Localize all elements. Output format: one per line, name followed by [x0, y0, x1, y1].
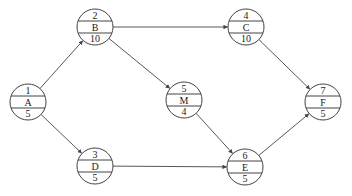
node-7: 7F5 — [305, 84, 341, 120]
nodes-layer: 1A52B103D54C105M46E57F5 — [10, 9, 341, 185]
node-duration: 4 — [182, 106, 187, 117]
node-2: 2B10 — [77, 9, 113, 45]
node-3: 3D5 — [77, 148, 113, 184]
edge-6-to-7 — [259, 114, 309, 156]
node-number: 4 — [244, 10, 249, 21]
node-activity: A — [24, 97, 32, 108]
node-duration: 5 — [321, 108, 326, 119]
node-number: 7 — [321, 85, 326, 96]
node-duration: 10 — [241, 33, 251, 44]
node-number: 6 — [243, 150, 248, 161]
node-number: 2 — [93, 10, 98, 21]
edge-4-to-7 — [259, 40, 310, 90]
node-duration: 5 — [26, 108, 31, 119]
node-number: 3 — [93, 149, 98, 160]
node-activity: E — [242, 162, 248, 173]
node-activity: D — [91, 161, 98, 172]
edge-2-to-5 — [109, 38, 170, 88]
node-number: 1 — [26, 85, 31, 96]
edge-3-to-6 — [113, 166, 227, 167]
node-4: 4C10 — [228, 9, 264, 45]
node-5: 5M4 — [166, 82, 202, 118]
node-activity: F — [320, 97, 326, 108]
node-activity: M — [180, 95, 189, 106]
node-duration: 10 — [90, 33, 100, 44]
node-activity: B — [92, 22, 99, 33]
node-number: 5 — [182, 83, 187, 94]
edge-5-to-6 — [196, 113, 232, 153]
node-1: 1A5 — [10, 84, 46, 120]
edge-1-to-2 — [40, 41, 83, 89]
node-6: 6E5 — [227, 149, 263, 185]
node-duration: 5 — [243, 173, 248, 184]
node-activity: C — [243, 22, 250, 33]
edge-1-to-3 — [41, 114, 82, 153]
network-diagram: 1A52B103D54C105M46E57F5 — [0, 0, 352, 196]
node-duration: 5 — [93, 172, 98, 183]
